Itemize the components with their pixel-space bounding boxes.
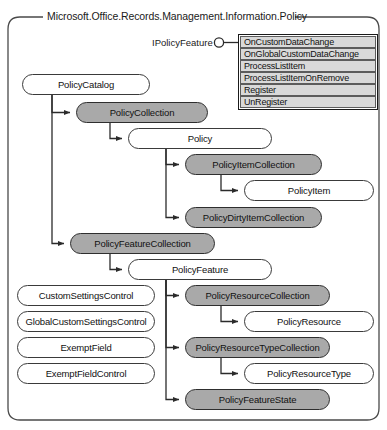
- class-node-policy-resource-type-collection[interactable]: PolicyResourceTypeCollection: [185, 337, 330, 358]
- class-node-custom-settings-control[interactable]: CustomSettingsControl: [17, 285, 155, 306]
- interface-method-row[interactable]: UnRegister: [240, 96, 376, 108]
- class-node-policy-collection[interactable]: PolicyCollection: [76, 102, 208, 123]
- interface-method-row[interactable]: Register: [240, 84, 376, 96]
- lollipop-interface-icon: [214, 38, 238, 47]
- interface-method-row[interactable]: ProcessListItem: [240, 60, 376, 72]
- interface-method-row[interactable]: OnGlobalCustomDataChange: [240, 48, 376, 60]
- class-node-policy[interactable]: Policy: [128, 128, 272, 149]
- class-node-policy-item-collection[interactable]: PolicyItemCollection: [185, 154, 322, 175]
- class-node-policy-resource[interactable]: PolicyResource: [244, 311, 374, 332]
- interface-method-list: OnCustomDataChangeOnGlobalCustomDataChan…: [238, 34, 378, 110]
- class-node-policy-resource-collection[interactable]: PolicyResourceCollection: [185, 285, 330, 306]
- class-node-exempt-field-control[interactable]: ExemptFieldControl: [17, 363, 155, 384]
- interface-method-row[interactable]: ProcessListItemOnRemove: [240, 72, 376, 84]
- class-node-policy-feature-state[interactable]: PolicyFeatureState: [185, 389, 330, 410]
- class-node-policy-feature-collection[interactable]: PolicyFeatureCollection: [70, 233, 215, 254]
- class-node-policy-catalog[interactable]: PolicyCatalog: [22, 74, 150, 95]
- class-node-policy-feature[interactable]: PolicyFeature: [128, 259, 272, 280]
- class-node-global-custom-settings-control[interactable]: GlobalCustomSettingsControl: [17, 311, 155, 332]
- interface-name-label: IPolicyFeature: [152, 37, 213, 48]
- namespace-title: Microsoft.Office.Records.Management.Info…: [47, 10, 307, 22]
- class-node-policy-resource-type[interactable]: PolicyResourceType: [244, 363, 374, 384]
- class-node-exempt-field[interactable]: ExemptField: [17, 337, 155, 358]
- class-node-policy-item[interactable]: PolicyItem: [244, 180, 374, 201]
- class-node-policy-dirty-item-collection[interactable]: PolicyDirtyItemCollection: [185, 207, 322, 228]
- interface-method-row[interactable]: OnCustomDataChange: [240, 36, 376, 48]
